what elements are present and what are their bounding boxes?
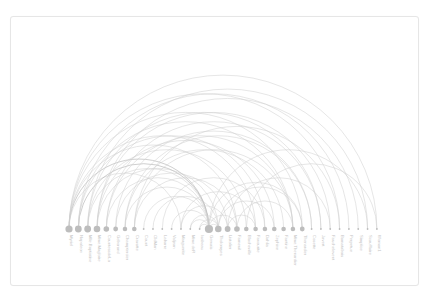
node-circle[interactable] <box>205 225 213 233</box>
node-circle[interactable] <box>104 226 110 232</box>
node-label: Javert <box>321 235 326 247</box>
node[interactable]: Scaufflaire <box>367 228 373 255</box>
node-circle[interactable] <box>339 228 341 230</box>
node[interactable]: OldMan <box>152 228 158 250</box>
node[interactable]: Fameuil <box>234 226 242 250</box>
node[interactable]: Listolier <box>225 226 233 250</box>
node-circle[interactable] <box>376 228 378 230</box>
node-circle[interactable] <box>311 228 313 230</box>
node-label: Count <box>144 235 149 247</box>
node-label: Labarre <box>163 235 168 250</box>
node-label: Perpetue <box>349 235 354 253</box>
node-circle[interactable] <box>348 228 350 230</box>
node-label: Zephine <box>275 235 280 251</box>
node-label: Fantine <box>284 235 289 250</box>
node-circle[interactable] <box>123 227 128 232</box>
node-label: Geborand <box>116 235 121 254</box>
node-circle[interactable] <box>171 228 173 230</box>
node-circle[interactable] <box>143 228 145 230</box>
node[interactable]: Favourite <box>253 227 261 253</box>
node[interactable]: Simplice <box>357 228 363 251</box>
node-circle[interactable] <box>320 228 322 230</box>
node[interactable]: Mlle.Baptistine <box>84 226 93 263</box>
node[interactable]: Myriel <box>65 225 74 246</box>
node[interactable]: Cravatte <box>132 227 140 252</box>
node-circle[interactable] <box>94 226 101 233</box>
arc-link <box>106 122 321 229</box>
node-circle[interactable] <box>357 228 359 230</box>
node[interactable]: Mme.Thenardier <box>291 227 299 267</box>
node-label: Myriel <box>69 235 74 246</box>
node-circle[interactable] <box>113 227 118 232</box>
node-circle[interactable] <box>253 227 258 232</box>
node-label: Woman1 <box>377 235 382 252</box>
node[interactable]: Valjean <box>171 228 177 249</box>
node-label: Napoleon <box>79 235 84 254</box>
node[interactable]: Woman1 <box>376 228 382 252</box>
node-circle[interactable] <box>329 228 331 230</box>
node-circle[interactable] <box>244 227 249 232</box>
node[interactable]: Geborand <box>113 227 121 255</box>
node-circle[interactable] <box>65 225 72 232</box>
arc-link <box>116 173 228 229</box>
node-label: Listolier <box>228 235 233 250</box>
node[interactable]: Javert <box>320 228 326 247</box>
node[interactable]: Napoleon <box>75 226 84 254</box>
node-label: Isabeau <box>200 235 205 251</box>
node-label: Bamatabois <box>340 235 345 257</box>
node-label: Mlle.Baptistine <box>88 235 93 263</box>
node-circle[interactable] <box>291 227 296 232</box>
node[interactable]: CountessdeLo <box>104 226 112 262</box>
node-label: Scaufflaire <box>368 235 373 255</box>
node-label: Gervais <box>209 235 214 249</box>
node-circle[interactable] <box>263 227 268 232</box>
node-label: Marguerite <box>181 235 186 256</box>
node-circle[interactable] <box>300 227 305 232</box>
node-label: Blacheville <box>247 235 252 256</box>
node[interactable]: Mme.deR <box>189 228 195 253</box>
node-label: Mme.Thenardier <box>293 235 298 266</box>
node[interactable]: Champtercier <box>123 227 131 261</box>
node[interactable]: Bamatabois <box>339 228 345 257</box>
arc-links <box>69 75 377 229</box>
node-circle[interactable] <box>75 226 82 233</box>
node-circle[interactable] <box>225 226 231 232</box>
node-label: Simplice <box>359 235 364 251</box>
node[interactable]: Isabeau <box>199 228 205 250</box>
node-circle[interactable] <box>272 227 277 232</box>
node-label: OldMan <box>153 235 158 250</box>
node-circle[interactable] <box>84 226 91 233</box>
node[interactable]: Dahlia <box>263 227 271 248</box>
node[interactable]: Count <box>143 228 149 247</box>
node-circle[interactable] <box>132 227 137 232</box>
node[interactable]: Gervais <box>205 225 215 250</box>
arc-link <box>69 173 181 229</box>
node-label: Valjean <box>172 235 177 249</box>
node-circle[interactable] <box>180 228 182 230</box>
node[interactable]: Perpetue <box>348 228 354 253</box>
node-label: CountessdeLo <box>107 235 112 263</box>
node[interactable]: Tholomyes <box>215 226 224 256</box>
node[interactable]: Mme.Magloire <box>94 226 103 262</box>
node-circle[interactable] <box>161 228 163 230</box>
node-circle[interactable] <box>152 228 154 230</box>
node[interactable]: Cosette <box>311 228 317 250</box>
node[interactable]: Zephine <box>272 227 280 251</box>
node-circle[interactable] <box>199 228 201 230</box>
node[interactable]: Labarre <box>161 228 167 250</box>
node-label: Favourite <box>256 235 261 253</box>
node-label: Mme.Magloire <box>97 235 102 262</box>
node-circle[interactable] <box>234 226 240 232</box>
node-circle[interactable] <box>215 226 222 233</box>
node-label: Dahlia <box>265 235 270 248</box>
node-circle[interactable] <box>281 227 286 232</box>
node[interactable]: Thenardier <box>300 227 308 256</box>
node-circle[interactable] <box>367 228 369 230</box>
node-label: Fauchelevent <box>331 235 336 261</box>
node[interactable]: Blacheville <box>244 227 252 256</box>
node[interactable]: Marguerite <box>180 228 186 256</box>
node[interactable]: Fantine <box>281 227 289 250</box>
arc-link <box>209 150 368 229</box>
node-circle[interactable] <box>189 228 191 230</box>
node[interactable]: Fauchelevent <box>329 228 335 261</box>
